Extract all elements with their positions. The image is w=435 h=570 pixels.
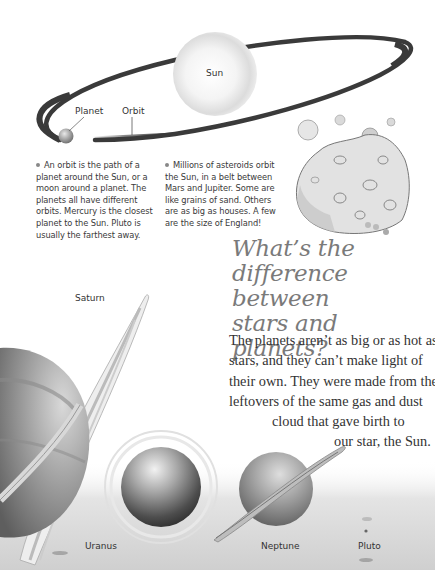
- body-line: stars, and they can’t make light of: [229, 350, 435, 370]
- fact-line: Mars and Jupiter. Some are: [165, 183, 295, 195]
- fact-line: like grains of sand. Others: [165, 195, 295, 207]
- pluto-label: Pluto: [358, 541, 381, 551]
- planet-label: Planet: [75, 106, 103, 116]
- fact-line: planet around the Sun, or a: [36, 172, 166, 184]
- heading-line: What’s the: [232, 236, 432, 261]
- fact-line: are as big as houses. A few: [165, 206, 295, 218]
- saturn-label: Saturn: [75, 293, 105, 303]
- fact-line: Millions of asteroids orbit: [173, 160, 275, 170]
- bullet-icon: [36, 163, 40, 167]
- fact-line: usually the farthest away.: [36, 230, 166, 242]
- fact-line: planet to the Sun. Pluto is: [36, 218, 166, 230]
- fact-line: planets all have different: [36, 195, 166, 207]
- fact-line: An orbit is the path of a: [44, 160, 140, 170]
- sun-label: Sun: [206, 68, 223, 78]
- asteroid-illustration: [296, 115, 409, 235]
- body-line: cloud that gave birth to: [229, 411, 435, 431]
- fact-line: are the size of England!: [165, 218, 295, 230]
- body-line: The planets aren’t as big or as hot as: [229, 330, 435, 350]
- fact-line: the Sun, in a belt between: [165, 172, 295, 184]
- pluto-illustration: [364, 529, 367, 532]
- body-line: leftovers of the same gas and dust: [229, 391, 435, 411]
- body-paragraph: The planets aren’t as big or as hot as s…: [229, 330, 435, 452]
- body-line: their own. They were made from the: [229, 371, 435, 391]
- body-line: our star, the Sun.: [229, 431, 435, 451]
- orbit-label: Orbit: [122, 106, 145, 116]
- neptune-label: Neptune: [261, 541, 299, 551]
- fact-line: moon around a planet. The: [36, 183, 166, 195]
- uranus-illustration: [121, 447, 201, 527]
- heading-line: difference between: [232, 261, 432, 311]
- asteroid-fact: Millions of asteroids orbit the Sun, in …: [165, 160, 295, 230]
- bullet-icon: [165, 163, 169, 167]
- uranus-label: Uranus: [85, 541, 117, 551]
- orbit-fact: An orbit is the path of a planet around …: [36, 160, 166, 241]
- fact-line: orbits. Mercury is the closest: [36, 206, 166, 218]
